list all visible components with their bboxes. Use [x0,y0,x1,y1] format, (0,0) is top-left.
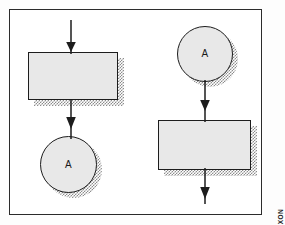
figure-page: A A U2 DIXON [0,0,285,225]
credit-label: U2 DIXON [277,209,284,225]
flowchart-canvas: A A [0,0,285,225]
left-connector-label: A [65,160,72,170]
left-process-box [28,52,118,100]
arrow-into-left-process [64,20,78,54]
right-connector-label: A [202,49,209,59]
arrow-right-connector-to-process [198,80,212,122]
right-process-box [158,120,251,170]
left-connector-circle: A [40,136,97,193]
arrow-left-process-to-connector [64,99,78,139]
right-connector-circle: A [177,26,233,82]
arrow-out-of-right-process [198,168,212,204]
